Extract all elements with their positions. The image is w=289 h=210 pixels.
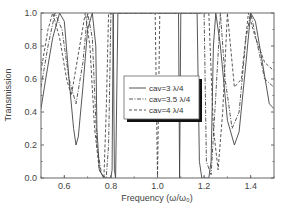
transmission-chart: 0.60.81.01.21.4 0.00.20.40.60.81.0 Frequ… [0, 0, 289, 210]
y-tick-label: 0.8 [24, 41, 37, 51]
y-tick-label: 0.2 [24, 140, 37, 150]
y-tick-label: 0.4 [24, 107, 37, 117]
legend-label-cav4: cav=4 λ/4 [149, 106, 184, 115]
x-tick-label: 0.8 [105, 181, 118, 191]
x-tick-label: 1.2 [198, 181, 211, 191]
y-axis-title: Transmission [3, 68, 13, 121]
y-tick-label: 0.6 [24, 74, 37, 84]
y-tick-label: 1.0 [24, 8, 37, 18]
x-tick-label: 1.4 [244, 181, 257, 191]
legend: cav=3 λ/4 cav=3.5 λ/4 cav=4 λ/4 [124, 76, 202, 122]
legend-label-cav3-5: cav=3.5 λ/4 [149, 95, 191, 104]
x-axis-title: Frequency (ω/ω₀) [121, 193, 192, 203]
x-tick-label: 0.6 [58, 181, 71, 191]
y-tick-label: 0.0 [24, 173, 37, 183]
x-axis-ticks: 0.60.81.01.21.4 [41, 175, 274, 191]
legend-label-cav3: cav=3 λ/4 [149, 84, 184, 93]
x-tick-label: 1.0 [151, 181, 164, 191]
